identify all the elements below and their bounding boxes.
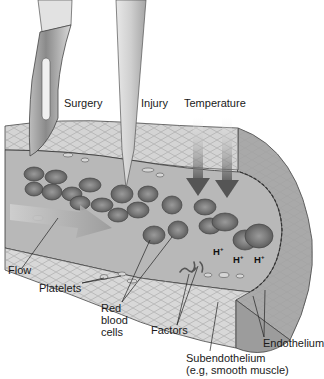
label-factors: Factors [151,324,188,336]
hydrogen-ion: H+ [213,246,223,257]
label-injury: Injury [141,97,168,109]
hydrogen-ion: H+ [233,254,243,265]
label-rbc-line2: blood [101,314,128,326]
label-rbc-line1: Red [101,302,121,314]
label-subendothelium: Subendothelium [186,352,266,364]
label-surgery: Surgery [64,97,103,109]
label-subendothelium-note: (e.g, smooth muscle) [186,364,289,376]
label-rbc-line3: cells [101,326,123,338]
hydrogen-ion: H+ [254,254,264,265]
label-platelets: Platelets [39,282,81,294]
label-flow: Flow [8,264,31,276]
label-endothelium: Endothelium [263,337,324,349]
label-temperature: Temperature [184,97,246,109]
